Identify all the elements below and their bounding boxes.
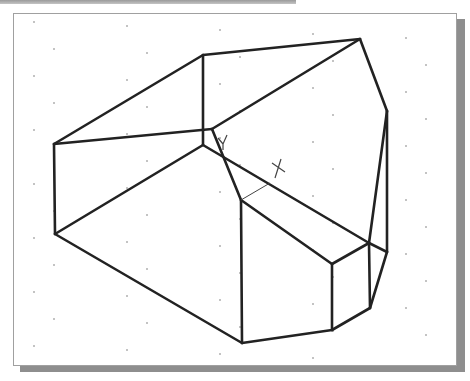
grid-dot bbox=[126, 25, 128, 27]
grid-dot bbox=[405, 307, 407, 309]
grid-dot bbox=[126, 295, 128, 297]
construction-line bbox=[241, 183, 270, 200]
snap-cross-marker bbox=[272, 159, 285, 178]
grid-dot bbox=[33, 345, 35, 347]
grid-dot bbox=[332, 114, 334, 116]
grid-dot bbox=[219, 83, 221, 85]
grid-dot bbox=[126, 187, 128, 189]
grid-dot bbox=[146, 52, 148, 54]
edge-A-L bbox=[54, 144, 55, 234]
grid-dot bbox=[126, 79, 128, 81]
edge-E-P bbox=[241, 200, 242, 343]
grid-dot bbox=[219, 353, 221, 355]
edge-P-Q bbox=[242, 330, 332, 343]
grid-dot bbox=[332, 60, 334, 62]
grid-dot bbox=[126, 349, 128, 351]
edge-G-H bbox=[369, 243, 387, 252]
edge-R-G bbox=[369, 111, 387, 243]
grid-dot bbox=[126, 241, 128, 243]
grid-dot bbox=[312, 357, 314, 359]
grid-dot bbox=[33, 75, 35, 77]
grid-dot bbox=[53, 48, 55, 50]
grid-dot bbox=[425, 226, 427, 228]
grid-dot bbox=[126, 133, 128, 135]
grid-dot bbox=[239, 326, 241, 328]
grid-dot bbox=[239, 56, 241, 58]
grid-dot bbox=[405, 91, 407, 93]
grid-dot bbox=[405, 37, 407, 39]
grid-dot bbox=[33, 291, 35, 293]
grid-dot bbox=[146, 214, 148, 216]
grid-dot bbox=[425, 280, 427, 282]
grid-dot bbox=[146, 322, 148, 324]
grid-dot bbox=[405, 253, 407, 255]
edge-S-Q bbox=[332, 308, 370, 330]
grid-dot bbox=[33, 21, 35, 23]
construction-line bbox=[241, 183, 270, 200]
grid-dot bbox=[405, 145, 407, 147]
grid-dot bbox=[219, 191, 221, 193]
grid-dot bbox=[146, 106, 148, 108]
grid-dot bbox=[425, 118, 427, 120]
wireframe-drawing[interactable] bbox=[0, 0, 470, 381]
grid-dot bbox=[425, 172, 427, 174]
grid-dot bbox=[53, 102, 55, 104]
grid-dot bbox=[405, 199, 407, 201]
grid-dot bbox=[146, 160, 148, 162]
grid-dot bbox=[53, 264, 55, 266]
edge-D-L bbox=[55, 145, 203, 234]
grid-dot bbox=[425, 334, 427, 336]
edge-H-S bbox=[370, 252, 387, 308]
grid-dot bbox=[219, 299, 221, 301]
edge-G-S bbox=[369, 243, 370, 308]
grid-dot bbox=[146, 268, 148, 270]
edge-F-G bbox=[332, 243, 369, 264]
edge-T-R bbox=[360, 39, 387, 111]
edge-L-P bbox=[55, 234, 242, 343]
grid-dot bbox=[53, 318, 55, 320]
edge-A-B bbox=[54, 55, 203, 144]
edge-D-G bbox=[203, 145, 369, 243]
grid-dot bbox=[312, 195, 314, 197]
grid-dot bbox=[33, 129, 35, 131]
grid-dot bbox=[312, 141, 314, 143]
grid-dot bbox=[425, 64, 427, 66]
grid-dot bbox=[33, 183, 35, 185]
grid-dot bbox=[312, 303, 314, 305]
grid-dot bbox=[312, 33, 314, 35]
grid-dot bbox=[332, 168, 334, 170]
grid-dot bbox=[219, 29, 221, 31]
grid-dot bbox=[33, 237, 35, 239]
edge-E-F bbox=[241, 200, 332, 264]
grid-dot bbox=[219, 137, 221, 139]
grid-dot bbox=[219, 245, 221, 247]
grid-dot bbox=[312, 87, 314, 89]
